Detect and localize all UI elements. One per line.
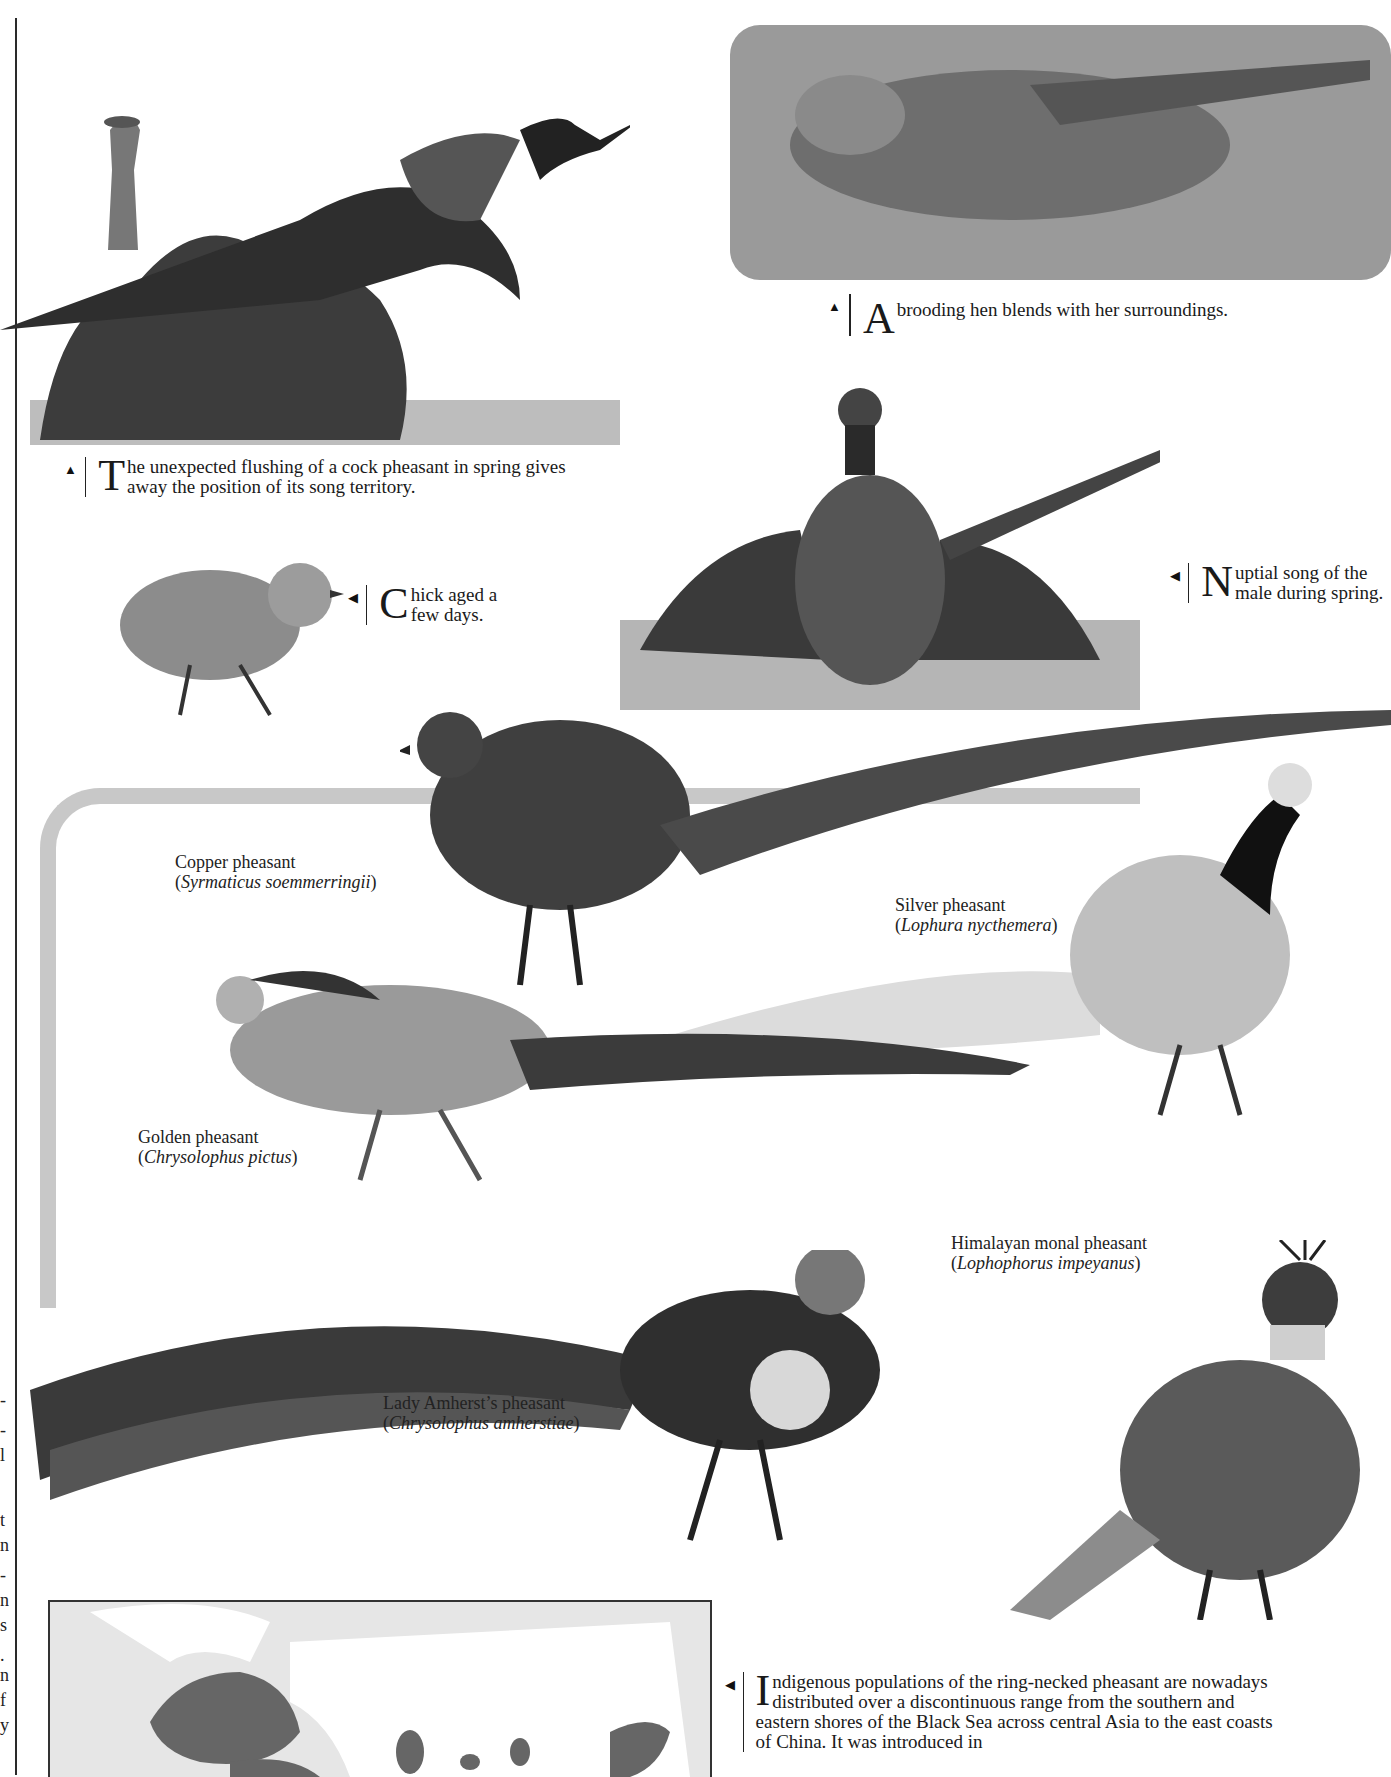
- caption-text: Nuptial song of the male during spring.: [1201, 563, 1391, 603]
- caption-brooding-hen: ▲ A brooding hen blends with her surroun…: [828, 294, 1368, 336]
- caption-text: Indigenous populations of the ring-necke…: [756, 1672, 1280, 1752]
- caption-chick: ◀ Chick aged a few days.: [348, 585, 508, 625]
- brooding-hen-illustration: [730, 5, 1391, 280]
- nuptial-display-illustration: [620, 380, 1160, 710]
- caption-rule: [366, 585, 367, 625]
- caption-rule: [85, 457, 86, 497]
- drop-cap: N: [1201, 565, 1233, 599]
- caption-rule: [1188, 563, 1189, 603]
- caption-nuptial-song: ◀ Nuptial song of the male during spring…: [1170, 563, 1391, 603]
- caption-text: The unexpected flushing of a cock pheasa…: [98, 457, 604, 497]
- drop-cap: A: [863, 302, 895, 336]
- arrow-left-icon: ◀: [725, 1678, 735, 1691]
- species-label-golden: Golden pheasant (Chrysolophus pictus): [138, 1127, 298, 1167]
- caption-text: Chick aged a few days.: [379, 585, 508, 625]
- drop-cap: I: [756, 1674, 771, 1708]
- species-label-silver: Silver pheasant (Lophura nycthemera): [895, 895, 1057, 935]
- arrow-left-icon: ◀: [348, 591, 358, 604]
- caption-rule: [849, 294, 851, 336]
- himalayan-monal-illustration: [990, 1240, 1390, 1620]
- caption-cock-flushing: ▲ The unexpected flushing of a cock phea…: [64, 457, 604, 497]
- drop-cap: C: [379, 587, 408, 621]
- species-label-himalayan-monal: Himalayan monal pheasant (Lophophorus im…: [951, 1233, 1147, 1273]
- arrow-up-icon: ▲: [828, 300, 841, 313]
- arrow-left-icon: ◀: [1170, 569, 1180, 582]
- drop-cap: T: [98, 459, 125, 493]
- species-label-lady-amherst: Lady Amherst’s pheasant (Chrysolophus am…: [383, 1393, 580, 1433]
- cock-flushing-illustration: [0, 100, 630, 450]
- arrow-up-icon: ▲: [64, 463, 77, 476]
- caption-range: ◀ Indigenous populations of the ring-nec…: [725, 1672, 1280, 1752]
- golden-pheasant-illustration: [210, 960, 1030, 1190]
- caption-text: A brooding hen blends with her surroundi…: [863, 300, 1228, 336]
- chick-illustration: [90, 545, 350, 725]
- species-label-copper: Copper pheasant (Syrmaticus soemmerringi…: [175, 852, 376, 892]
- range-map-shapes: [50, 1602, 710, 1777]
- range-map: [48, 1600, 712, 1777]
- caption-rule: [743, 1672, 744, 1752]
